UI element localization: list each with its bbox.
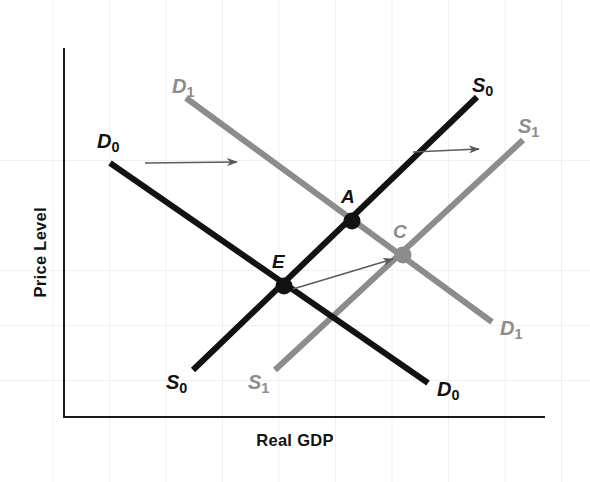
point-a-marker [344,213,361,230]
chart-canvas: D0 D0 D1 D1 S0 S0 S1 S1 E A C Price Leve… [0,0,590,482]
y-axis-title: Price Level [31,208,50,298]
point-c-marker [395,247,412,264]
curve-label-s0-bottom: S0 [166,372,187,392]
x-axis-title: Real GDP [225,431,365,450]
point-label-a: A [341,187,355,206]
demand-shift-arrow [145,162,237,163]
curve-label-d0-top: D0 [97,131,119,151]
curve-label-s0-top: S0 [472,75,493,95]
point-e-marker [276,278,293,295]
curve-label-d1-bottom: D1 [500,318,522,338]
chart-plot-area [0,0,590,482]
curve-label-d1-top: D1 [172,76,194,96]
curve-label-s1-top: S1 [518,116,539,136]
point-label-c: C [393,222,407,241]
curve-label-d0-bottom: D0 [437,379,459,399]
curves-group [110,97,523,383]
curve-label-s1-bottom: S1 [248,372,269,392]
point-label-e: E [272,252,285,271]
